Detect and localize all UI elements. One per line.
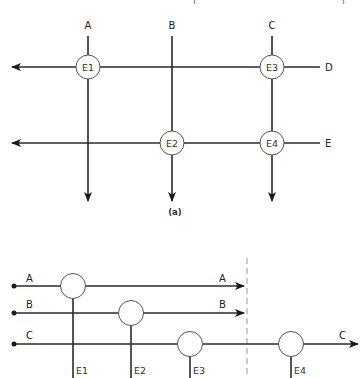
node-b-e3 bbox=[178, 332, 203, 357]
column-label-a: A bbox=[85, 20, 92, 31]
node-e3-label: E3 bbox=[266, 62, 278, 73]
node-b-e4-label: E4 bbox=[294, 365, 306, 376]
node-e4-label: E4 bbox=[266, 138, 278, 149]
output-label-c: C bbox=[339, 330, 346, 341]
output-label-b: B bbox=[219, 299, 226, 310]
input-label-b: B bbox=[26, 299, 33, 310]
node-e2: E2 bbox=[160, 131, 184, 155]
node-e4: E4 bbox=[260, 131, 284, 155]
row-label-e: E bbox=[325, 138, 331, 149]
caption-a: (a) bbox=[168, 207, 182, 217]
start-dot-c bbox=[12, 342, 17, 347]
node-b-e2-label: E2 bbox=[134, 365, 146, 376]
node-b-e1-label: E1 bbox=[76, 365, 88, 376]
input-label-a: A bbox=[26, 273, 33, 284]
diagram-a: A B C D E E1 E2 E3 E4 (a) bbox=[12, 20, 333, 217]
row-label-d: D bbox=[325, 62, 333, 73]
node-e3: E3 bbox=[260, 55, 284, 79]
node-b-e4 bbox=[279, 332, 304, 357]
diagram-b: A B C A B C E1 E2 E3 E4 bbox=[12, 258, 359, 378]
node-e1-label: E1 bbox=[82, 62, 94, 73]
node-b-e1 bbox=[61, 274, 86, 299]
start-dot-a bbox=[12, 284, 17, 289]
node-b-e3-label: E3 bbox=[193, 365, 205, 376]
output-label-a: A bbox=[219, 273, 226, 284]
diagram-canvas: A B C D E E1 E2 E3 E4 (a) bbox=[0, 0, 364, 378]
node-e1: E1 bbox=[76, 55, 100, 79]
header-cutoff bbox=[194, 0, 344, 4]
column-label-b: B bbox=[169, 20, 176, 31]
node-b-e2 bbox=[119, 301, 144, 326]
input-label-c: C bbox=[26, 330, 33, 341]
node-e2-label: E2 bbox=[166, 138, 178, 149]
start-dot-b bbox=[12, 311, 17, 316]
column-label-c: C bbox=[269, 20, 276, 31]
